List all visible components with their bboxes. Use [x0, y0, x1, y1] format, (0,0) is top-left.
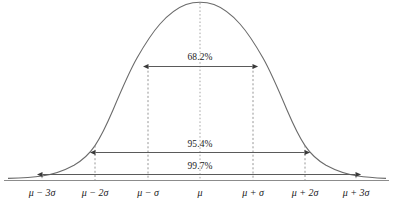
- three-sigma-percent-label: 99.7%: [187, 161, 212, 171]
- x-tick-label-plus-1-sigma: μ + σ: [241, 187, 265, 198]
- x-tick-label-plus-2-sigma: μ + 2σ: [291, 187, 320, 198]
- one-sigma-percent-label: 68.2%: [187, 52, 212, 62]
- normal-distribution-figure: 68.2% 95.4% 99.7% μ − 3σ μ − 2σ μ − σ μ …: [0, 0, 393, 210]
- interval-two-sigma: 95.4%: [96, 139, 305, 153]
- x-tick-label-minus-3-sigma: μ − 3σ: [28, 187, 57, 198]
- bell-curve: [8, 2, 386, 178]
- two-sigma-percent-label: 95.4%: [187, 139, 212, 149]
- x-tick-label-minus-1-sigma: μ − σ: [136, 187, 160, 198]
- x-axis-tick-labels: μ − 3σ μ − 2σ μ − σ μ μ + σ μ + 2σ μ + 3…: [28, 187, 371, 198]
- interval-one-sigma: 68.2%: [149, 52, 253, 67]
- interval-three-sigma: 99.7%: [43, 161, 356, 175]
- normal-curve-path: [8, 2, 386, 178]
- x-tick-label-plus-3-sigma: μ + 3σ: [342, 187, 371, 198]
- x-tick-label-minus-2-sigma: μ − 2σ: [81, 187, 110, 198]
- x-tick-label-mean: μ: [196, 187, 202, 198]
- distribution-chart-svg: 68.2% 95.4% 99.7% μ − 3σ μ − 2σ μ − σ μ …: [0, 0, 393, 210]
